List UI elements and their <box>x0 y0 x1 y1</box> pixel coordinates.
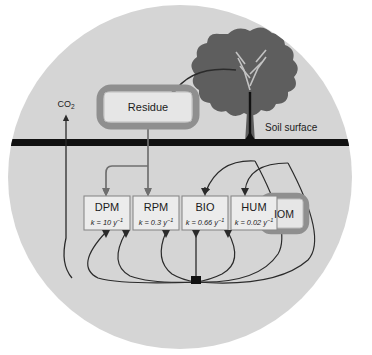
pool-label-rpm: RPM <box>144 202 169 213</box>
rothc-diagram: CO2 Soil surface Residue IOM DPM k = 10 … <box>0 0 372 355</box>
pool-rate-bio: k = 0.66 y−1 <box>186 218 225 227</box>
pool-label-bio: BIO <box>195 202 214 213</box>
iom-label: IOM <box>274 209 294 220</box>
junction-node <box>191 276 201 284</box>
diagram-canvas <box>0 0 372 355</box>
co2-label: CO2 <box>57 100 74 109</box>
pool-rate-dpm: k = 10 y−1 <box>91 218 123 227</box>
pool-label-dpm: DPM <box>95 202 120 213</box>
pool-rate-hum: k = 0.02 y−1 <box>235 218 274 227</box>
pool-label-hum: HUM <box>241 202 266 213</box>
pool-rate-rpm: k = 0.3 y−1 <box>139 218 174 227</box>
soil-surface-line <box>8 139 364 146</box>
background-circle <box>8 5 352 349</box>
residue-label: Residue <box>128 102 168 113</box>
soil-surface-label: Soil surface <box>265 123 317 133</box>
